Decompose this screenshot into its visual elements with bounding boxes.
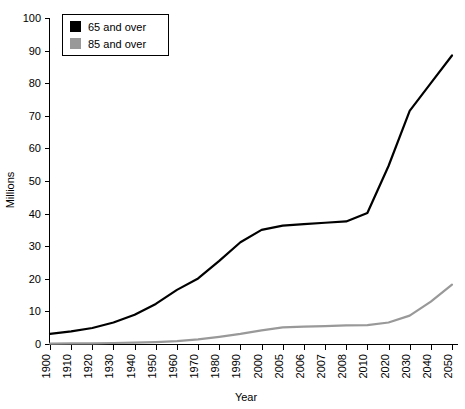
x-tick-label: 1900 <box>40 354 52 378</box>
x-tick-label: 2006 <box>294 354 306 378</box>
legend-label-65-and-over: 65 and over <box>88 21 146 33</box>
x-tick-label: 1940 <box>125 354 137 378</box>
x-tick-label: 2008 <box>336 354 348 378</box>
x-tick-label: 1910 <box>61 354 73 378</box>
y-tick-label: 10 <box>29 305 41 317</box>
series-group <box>50 55 452 343</box>
x-tick-label: 2005 <box>273 354 285 378</box>
x-tick-label: 1930 <box>103 354 115 378</box>
line-chart: 0102030405060708090100 19001910192019301… <box>0 0 465 409</box>
x-axis-ticks: 1900191019201930194019501960197019801990… <box>40 344 454 378</box>
legend-swatch-65-and-over <box>70 21 81 32</box>
x-tick-label: 2040 <box>421 354 433 378</box>
x-tick-label: 1990 <box>230 354 242 378</box>
legend-label-85-and-over: 85 and over <box>88 38 146 50</box>
y-tick-label: 90 <box>29 45 41 57</box>
chart-canvas: 0102030405060708090100 19001910192019301… <box>0 0 465 409</box>
x-axis-title: Year <box>235 391 258 403</box>
x-tick-label: 1960 <box>167 354 179 378</box>
x-tick-label: 1950 <box>146 354 158 378</box>
series-line-65-and-over <box>50 55 452 333</box>
x-tick-label: 2050 <box>442 354 454 378</box>
x-tick-label: 2020 <box>379 354 391 378</box>
x-tick-label: 1980 <box>209 354 221 378</box>
x-tick-label: 2007 <box>315 354 327 378</box>
y-tick-label: 70 <box>29 110 41 122</box>
legend-swatch-85-and-over <box>70 38 81 49</box>
x-tick-label: 2000 <box>252 354 264 378</box>
x-tick-label: 2010 <box>357 354 369 378</box>
y-axis-title: Millions <box>4 171 16 208</box>
x-tick-label: 1920 <box>82 354 94 378</box>
y-tick-label: 50 <box>29 175 41 187</box>
y-tick-label: 60 <box>29 142 41 154</box>
x-tick-label: 1970 <box>188 354 200 378</box>
y-tick-label: 80 <box>29 77 41 89</box>
series-line-85-and-over <box>50 285 452 344</box>
y-tick-label: 30 <box>29 240 41 252</box>
chart-legend: 65 and over 85 and over <box>63 15 169 56</box>
y-tick-label: 100 <box>23 12 41 24</box>
y-tick-label: 20 <box>29 273 41 285</box>
y-axis-ticks: 0102030405060708090100 <box>23 12 50 350</box>
y-tick-label: 0 <box>35 338 41 350</box>
y-tick-label: 40 <box>29 208 41 220</box>
x-tick-label: 2030 <box>400 354 412 378</box>
